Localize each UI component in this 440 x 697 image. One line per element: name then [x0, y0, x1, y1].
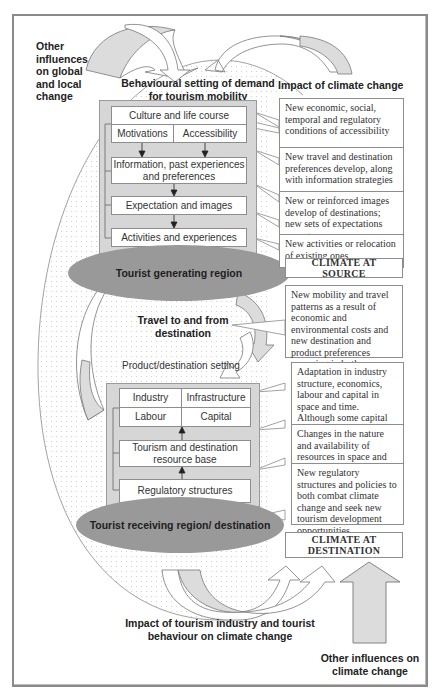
box-industry: Industry	[119, 388, 182, 408]
impact-box-accessibility: New economic, social, temporal and regul…	[279, 98, 404, 148]
ellipse-receiving-region: Tourist receiving region/ destination	[76, 497, 284, 553]
climate-at-destination: CLIMATE AT DESTINATION	[285, 532, 403, 558]
box-infrastructure: Infrastructure	[181, 388, 251, 408]
impact-box-preferences: New travel and destination preferences d…	[279, 147, 404, 192]
impact-box-resources: Changes in the nature and availability o…	[291, 424, 404, 464]
label-other-influences-climate: Other influences on climate change	[320, 652, 420, 677]
label-product-destination-setting: Product/destination setting	[122, 360, 240, 371]
box-expectation: Expectation and images	[111, 196, 247, 215]
impact-box-adaptation: Adaptation in industry structure, econom…	[291, 362, 404, 425]
box-resource-base: Tourism and destination resource base	[119, 440, 251, 467]
box-accessibility: Accessibility	[173, 124, 247, 143]
impact-box-images: New or reinforced images develop of dest…	[279, 191, 404, 235]
label-other-influences-global: Other influences on global and local cha…	[36, 40, 96, 103]
label-travel-to-from: Travel to and from destination	[128, 314, 238, 339]
label-behavioural-setting: Behavioural setting of demand for touris…	[118, 77, 278, 102]
box-labour: Labour	[119, 407, 182, 427]
impact-box-mobility: New mobility and travel patterns as a re…	[285, 285, 403, 358]
box-culture: Culture and life course	[111, 106, 247, 125]
climate-at-source: CLIMATE AT SOURCE	[285, 258, 403, 278]
box-motivations: Motivations	[111, 124, 174, 143]
label-impact-of-tourism: Impact of tourism industry and tourist b…	[125, 617, 315, 642]
ellipse-generating-region: Tourist generating region	[68, 245, 290, 301]
impact-box-regulatory: New regulatory structures and policies t…	[291, 463, 404, 525]
box-capital: Capital	[181, 407, 251, 427]
box-information: Information, past experiences and prefer…	[111, 157, 247, 184]
label-impact-of-climate-change: Impact of climate change	[278, 79, 428, 92]
